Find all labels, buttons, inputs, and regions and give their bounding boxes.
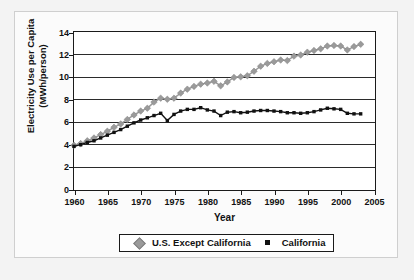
chart-page: Electricity Use per Capita (MWh/person) …: [0, 0, 414, 280]
data-point-diamond: [191, 83, 198, 90]
data-point-square: [152, 114, 155, 117]
x-axis-tick-mark: [375, 191, 376, 195]
data-point-square: [86, 141, 89, 144]
data-point-square: [112, 131, 115, 134]
data-point-square: [352, 112, 355, 115]
data-point-square: [192, 108, 195, 111]
y-axis-tick-label: 12: [59, 50, 69, 60]
legend-entry-california: California: [257, 237, 326, 248]
data-point-diamond: [277, 57, 284, 64]
data-point-square: [252, 109, 255, 112]
data-point-diamond: [264, 60, 271, 67]
data-point-square: [212, 109, 215, 112]
data-point-diamond: [324, 43, 331, 50]
data-point-square: [92, 139, 95, 142]
data-point-diamond: [137, 108, 144, 115]
x-axis-tick-label: 1965: [98, 197, 118, 207]
data-point-square: [286, 111, 289, 114]
data-point-diamond: [297, 52, 304, 59]
data-point-square: [119, 128, 122, 131]
data-point-diamond: [317, 46, 324, 53]
data-point-diamond: [184, 86, 191, 93]
plot-area: [73, 31, 376, 191]
data-point-diamond: [351, 43, 358, 50]
data-point-square: [199, 106, 202, 109]
x-axis-tick-mark: [75, 191, 76, 195]
figure-frame: Electricity Use per Capita (MWh/person) …: [14, 11, 398, 258]
x-axis-tick-labels: 1960196519701975198019851990199520002005: [73, 197, 376, 211]
x-axis-tick-mark: [208, 191, 209, 195]
legend-marker-diamond-icon: [127, 238, 149, 248]
x-axis-tick-label: 1970: [131, 197, 151, 207]
legend-entry-us-except-california: U.S. Except California: [127, 237, 251, 248]
legend-label-us-except-california: U.S. Except California: [152, 237, 251, 248]
x-axis-tick-label: 1995: [298, 197, 318, 207]
data-point-square: [292, 111, 295, 114]
x-axis-tick-label: 2005: [365, 197, 385, 207]
x-axis-tick-mark: [275, 191, 276, 195]
legend: U.S. Except California California: [119, 234, 334, 252]
x-axis-tick-label: 1980: [198, 197, 218, 207]
data-point-square: [226, 110, 229, 113]
data-point-diamond: [337, 43, 344, 50]
data-point-square: [132, 121, 135, 124]
x-axis-tick-marks: [73, 191, 376, 196]
data-point-square: [279, 110, 282, 113]
data-point-square: [146, 116, 149, 119]
data-point-square: [319, 108, 322, 111]
x-axis-tick-mark: [308, 191, 309, 195]
x-axis-tick-mark: [341, 191, 342, 195]
data-point-square: [126, 125, 129, 128]
data-point-square: [159, 112, 162, 115]
data-point-square: [72, 145, 75, 148]
series-layer: [74, 32, 374, 189]
data-point-square: [186, 108, 189, 111]
chart-area: Electricity Use per Capita (MWh/person) …: [15, 12, 399, 259]
data-point-square: [326, 107, 329, 110]
diamond-marker-icon: [133, 237, 146, 250]
y-axis-tick-label: 10: [59, 72, 69, 82]
data-point-square: [272, 109, 275, 112]
data-point-square: [299, 112, 302, 115]
data-point-diamond: [111, 124, 118, 131]
data-point-square: [239, 111, 242, 114]
x-axis-tick-mark: [141, 191, 142, 195]
data-point-diamond: [204, 80, 211, 87]
data-point-square: [179, 109, 182, 112]
x-axis-tick-mark: [175, 191, 176, 195]
legend-label-california: California: [282, 237, 326, 248]
x-axis-tick-label: 1960: [65, 197, 85, 207]
x-axis-tick-label: 1975: [165, 197, 185, 207]
data-point-square: [166, 119, 169, 122]
data-point-square: [219, 114, 222, 117]
series-line: [74, 44, 361, 145]
data-point-square: [339, 108, 342, 111]
data-point-diamond: [164, 96, 171, 103]
data-point-square: [106, 133, 109, 136]
data-point-diamond: [157, 95, 164, 102]
data-point-diamond: [331, 42, 338, 49]
data-point-square: [99, 136, 102, 139]
data-point-square: [206, 108, 209, 111]
x-axis-tick-label: 1990: [265, 197, 285, 207]
data-point-square: [172, 113, 175, 116]
data-point-square: [312, 110, 315, 113]
x-axis-tick-label: 2000: [331, 197, 351, 207]
data-point-square: [332, 107, 335, 110]
x-axis-title: Year: [73, 212, 376, 223]
x-axis-tick-mark: [108, 191, 109, 195]
x-axis-tick-label: 1985: [231, 197, 251, 207]
data-point-square: [306, 111, 309, 114]
data-point-diamond: [311, 47, 318, 54]
square-marker-icon: [265, 240, 270, 245]
data-point-square: [266, 109, 269, 112]
data-point-diamond: [357, 41, 364, 48]
legend-marker-square-icon: [257, 238, 279, 248]
y-axis-tick-label: 14: [59, 28, 69, 38]
y-axis-tick-labels: 02468101214: [41, 31, 69, 191]
data-point-square: [346, 112, 349, 115]
data-point-square: [79, 143, 82, 146]
x-axis-tick-mark: [241, 191, 242, 195]
data-point-square: [232, 110, 235, 113]
data-point-square: [139, 118, 142, 121]
